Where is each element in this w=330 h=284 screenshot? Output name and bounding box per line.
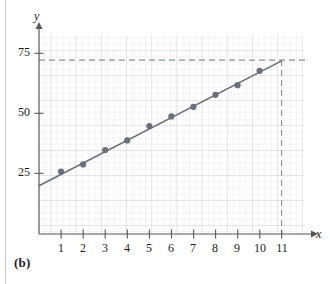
data-point (146, 123, 152, 129)
x-tick-label-5: 5 (139, 241, 159, 256)
y-tick-label-50: 50 (4, 105, 30, 120)
x-tick-label-9: 9 (227, 241, 247, 256)
x-tick-label-1: 1 (51, 241, 71, 256)
y-tick-label-75: 75 (4, 45, 30, 60)
x-tick-label-6: 6 (161, 241, 181, 256)
data-point (80, 161, 86, 167)
x-tick-label-4: 4 (117, 241, 137, 256)
data-point (212, 92, 218, 98)
x-tick-label-7: 7 (183, 241, 203, 256)
chart-grid (39, 35, 303, 234)
x-tick-label-3: 3 (95, 241, 115, 256)
panel-label: (b) (14, 255, 31, 271)
x-tick-label-10: 10 (249, 241, 271, 256)
data-point (124, 137, 130, 143)
data-point (257, 68, 263, 74)
x-tick-label-11: 11 (271, 241, 293, 256)
data-point (234, 82, 240, 88)
y-axis-letter: y (34, 9, 39, 24)
data-point (190, 104, 196, 110)
data-point (58, 169, 64, 175)
data-point (168, 113, 174, 119)
x-tick-label-8: 8 (205, 241, 225, 256)
y-tick-label-25: 25 (4, 165, 30, 180)
x-tick-label-2: 2 (73, 241, 93, 256)
x-axis-letter: x (316, 227, 321, 242)
data-point (102, 147, 108, 153)
